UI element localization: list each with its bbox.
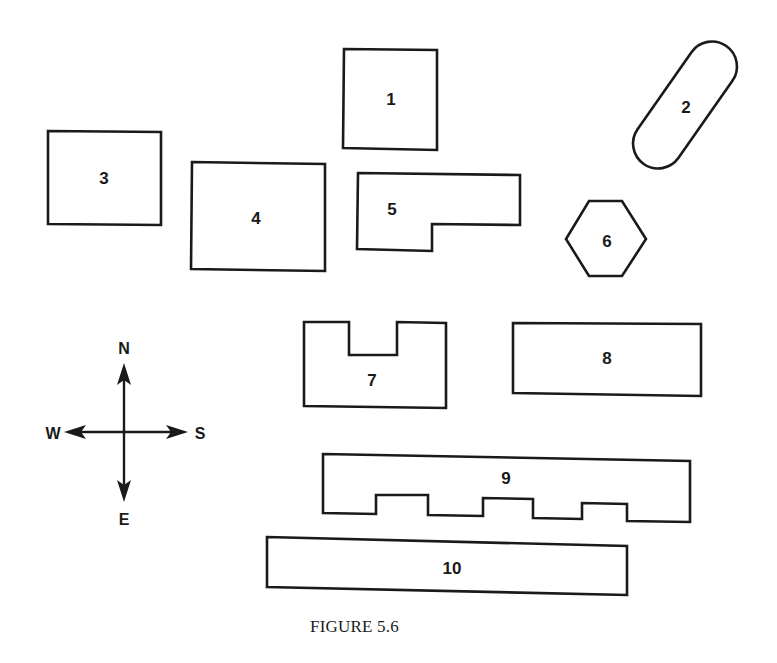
shape-4: 4 — [191, 162, 325, 271]
shape-2-label: 2 — [681, 98, 690, 117]
shape-10-label: 10 — [443, 559, 462, 578]
shape-8: 8 — [513, 323, 701, 396]
shape-7: 7 — [304, 322, 446, 408]
shape-5-outline — [357, 173, 520, 251]
shape-6-label: 6 — [602, 232, 611, 251]
shape-8-label: 8 — [602, 349, 611, 368]
shape-9-label: 9 — [501, 469, 510, 488]
compass-label-bottom: E — [119, 511, 130, 528]
compass-rose: N W S E — [45, 340, 205, 528]
shape-10: 10 — [267, 537, 627, 595]
shape-9-outline — [323, 454, 690, 522]
shape-5: 5 — [357, 173, 520, 251]
shape-4-label: 4 — [251, 209, 261, 228]
shape-5-label: 5 — [387, 200, 396, 219]
shape-6: 6 — [566, 201, 646, 276]
compass-label-left: W — [45, 425, 61, 442]
compass-label-top: N — [118, 340, 130, 357]
diagram-canvas: 1 2 3 4 5 6 7 — [0, 0, 777, 663]
figure-caption: FIGURE 5.6 — [310, 617, 399, 637]
shape-3: 3 — [48, 131, 161, 225]
shape-9: 9 — [323, 454, 690, 522]
shape-3-label: 3 — [99, 169, 108, 188]
shape-1: 1 — [343, 49, 437, 150]
compass-label-right: S — [195, 425, 206, 442]
figure-5-6: 1 2 3 4 5 6 7 — [0, 0, 777, 663]
shape-7-outline — [304, 322, 446, 408]
shape-7-label: 7 — [367, 371, 376, 390]
shape-1-label: 1 — [386, 90, 395, 109]
